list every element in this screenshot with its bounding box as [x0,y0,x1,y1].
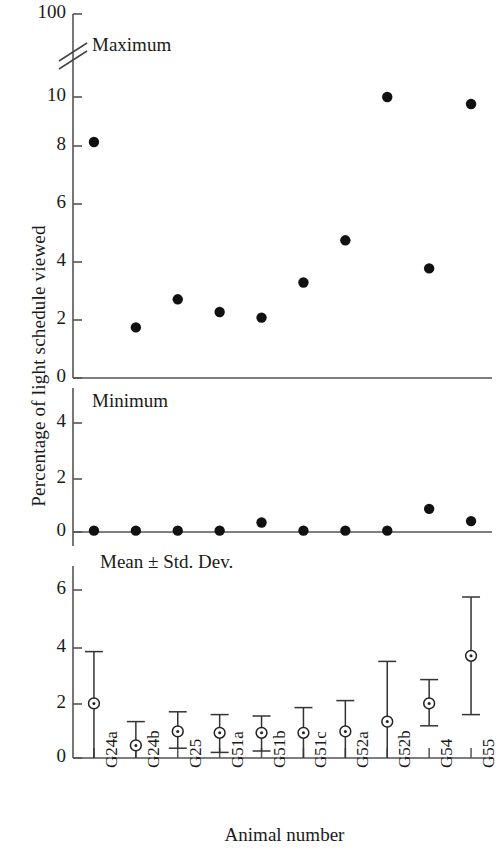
min-point-G51a [214,525,224,535]
y-tick-max-6: 6 [57,191,67,213]
mean-dot-G54 [428,702,431,705]
mean-dot-G55 [470,654,473,657]
max-point-G25 [173,294,183,304]
y-tick-max-4: 4 [57,249,67,271]
y-tick-min-0: 0 [57,519,67,541]
max-point-G51b [256,312,266,322]
y-tick-mean-2: 2 [57,691,67,713]
panel-label-maximum: Maximum [92,34,171,56]
y-tick-min-2: 2 [57,466,67,488]
min-point-G54 [424,504,434,514]
figure-panel-chart: Percentage of light schedule viewed Anim… [0,0,496,856]
x-category-G51a: G51a [228,731,248,768]
chart-canvas [0,0,496,856]
x-category-G54: G54 [437,739,457,768]
mean-dot-G24a [92,702,95,705]
y-tick-max-2: 2 [57,307,67,329]
mean-dot-G51c [302,731,305,734]
mean-dot-G25 [176,730,179,733]
max-point-G55 [466,99,476,109]
min-point-G52b [382,525,392,535]
mean-dot-G24b [134,744,137,747]
min-point-G55 [466,516,476,526]
min-point-G24a [89,525,99,535]
max-point-G24b [131,322,141,332]
x-category-G55: G55 [479,739,496,768]
y-tick-max-0: 0 [57,365,67,387]
min-point-G51b [256,517,266,527]
y-tick-max-10: 10 [47,84,66,106]
x-category-G24b: G24b [144,730,164,768]
min-point-G51c [298,525,308,535]
y-tick-max-100: 100 [38,1,67,23]
x-category-G52b: G52b [395,730,415,768]
max-point-G54 [424,263,434,273]
mean-dot-G51b [260,731,263,734]
y-tick-max-8: 8 [57,133,67,155]
max-point-G51c [298,277,308,287]
y-tick-mean-6: 6 [57,577,67,599]
min-point-G24b [131,525,141,535]
max-point-G52a [340,235,350,245]
x-category-G51b: G51b [270,730,290,768]
y-tick-min-4: 4 [57,410,67,432]
panel-label-mean-std-dev: Mean ± Std. Dev. [100,551,233,573]
data-layer [85,92,480,758]
y-tick-mean-0: 0 [57,745,67,767]
mean-dot-G51a [218,731,221,734]
mean-dot-G52b [386,720,389,723]
max-point-G51a [214,307,224,317]
y-tick-mean-4: 4 [57,635,67,657]
max-point-G24a [89,137,99,147]
min-point-G52a [340,525,350,535]
axes-layer [59,14,492,758]
x-category-G25: G25 [186,739,206,768]
mean-dot-G52a [344,730,347,733]
x-category-G51c: G51c [311,731,331,768]
x-category-G24a: G24a [102,731,122,768]
max-point-G52b [382,92,392,102]
min-point-G25 [173,525,183,535]
x-category-G52a: G52a [353,731,373,768]
panel-label-minimum: Minimum [92,390,168,412]
errorbar-G52b [378,661,396,758]
